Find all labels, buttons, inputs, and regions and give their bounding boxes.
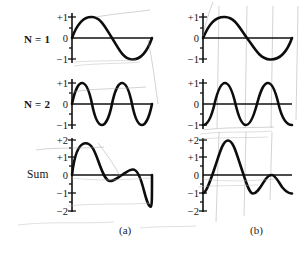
ytick-a-sum-plus2: +2 <box>57 135 68 146</box>
ytick-b-n1-plus1: +1 <box>188 12 199 23</box>
ytick-a-n1-plus1: +1 <box>57 12 68 23</box>
ytick-a-n2-plus1: +1 <box>57 78 68 89</box>
ytick-labels-b: +1 0 −1 +1 0 −1 +2 +1 0 −1 −2 <box>188 12 199 217</box>
ytick-b-sum-zero: 0 <box>194 170 199 181</box>
panel-a-n2 <box>68 79 152 129</box>
ytick-a-sum-plus1: +1 <box>57 152 68 163</box>
ytick-a-n2-minus1: −1 <box>57 120 68 131</box>
figure-container: +1 0 −1 +1 0 −1 +2 +1 0 −1 −2 +1 0 −1 +1… <box>0 0 304 257</box>
ghost-guide-b2 <box>203 2 213 36</box>
ytick-b-n2-zero: 0 <box>194 99 199 110</box>
panel-caption-a: (a) <box>119 224 131 236</box>
panel-a-sum <box>68 138 152 212</box>
ytick-b-n1-minus1: −1 <box>188 54 199 65</box>
row-label-n2: N = 2 <box>24 98 50 110</box>
ghost-guide-b1 <box>203 127 274 130</box>
ytick-b-sum-plus2: +2 <box>188 135 199 146</box>
ytick-a-sum-minus2: −2 <box>57 206 68 217</box>
panel-a-n1 <box>68 13 152 63</box>
scan-smudge-8 <box>200 137 268 139</box>
scan-smudge-5 <box>18 222 114 225</box>
ghost-guide-a5 <box>148 40 158 104</box>
scan-smudge-4 <box>68 203 150 206</box>
panel-caption-b: (b) <box>250 224 263 236</box>
scan-smudge-6 <box>140 226 196 228</box>
ytick-a-sum-zero: 0 <box>63 170 68 181</box>
ytick-a-n1-zero: 0 <box>63 33 68 44</box>
ytick-labels-a: +1 0 −1 +1 0 −1 +2 +1 0 −1 −2 <box>57 12 68 217</box>
panel-b-n1 <box>199 13 292 63</box>
scan-smudge-3 <box>72 178 150 180</box>
ytick-b-n2-plus1: +1 <box>188 78 199 89</box>
ytick-b-n2-minus1: −1 <box>188 120 199 131</box>
ytick-a-n2-zero: 0 <box>63 99 68 110</box>
scan-smudge-7 <box>200 131 272 134</box>
ytick-a-sum-minus1: −1 <box>57 188 68 199</box>
ghost-guide-a1 <box>96 10 150 17</box>
row-label-sum: Sum <box>27 168 49 180</box>
ytick-b-sum-minus2: −2 <box>188 206 199 217</box>
ytick-b-sum-minus1: −1 <box>188 188 199 199</box>
row-label-n1: N = 1 <box>24 33 50 45</box>
ytick-a-n1-minus1: −1 <box>57 54 68 65</box>
scan-smudge-2 <box>74 60 136 62</box>
ytick-b-sum-plus1: +1 <box>188 152 199 163</box>
ytick-b-n1-zero: 0 <box>194 33 199 44</box>
scan-smudge-1 <box>74 62 140 66</box>
ghost-guide-a2 <box>72 87 146 92</box>
